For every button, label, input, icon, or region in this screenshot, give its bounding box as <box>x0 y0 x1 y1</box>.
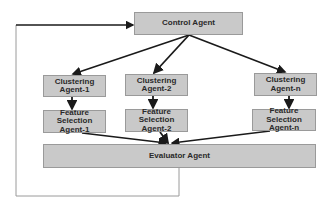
control-agent-label: Control Agent <box>162 19 215 28</box>
feature-selection-agent-1-node: Feature Selection Agent-1 <box>43 110 106 133</box>
clustering-agent-n-label: Clustering Agent-n <box>266 76 306 93</box>
clustering-agent-2-node: Clustering Agent-2 <box>125 74 188 96</box>
evaluator-agent-node: Evaluator Agent <box>43 144 316 168</box>
arrow-feature-2-to-evaluator <box>160 132 168 143</box>
clustering-agent-2-label: Clustering Agent-2 <box>137 77 177 94</box>
feature-selection-agent-1-label: Feature Selection Agent-1 <box>57 109 93 135</box>
multi-agent-diagram: Control Agent Clustering Agent-1 Cluster… <box>0 0 334 207</box>
clustering-agent-n-node: Clustering Agent-n <box>254 73 317 96</box>
arrow-feature-1-to-evaluator <box>82 133 166 143</box>
clustering-agent-1-label: Clustering Agent-1 <box>55 78 95 95</box>
evaluator-agent-label: Evaluator Agent <box>149 152 210 161</box>
control-agent-node: Control Agent <box>134 12 243 35</box>
feature-selection-agent-2-node: Feature Selection Agent-2 <box>125 109 188 132</box>
arrow-control-to-clustering-n <box>189 35 285 72</box>
feature-selection-agent-2-label: Feature Selection Agent-2 <box>139 108 175 134</box>
feature-selection-agent-n-label: Feature Selection Agent-n <box>266 107 302 133</box>
feature-selection-agent-n-node: Feature Selection Agent-n <box>252 109 316 131</box>
arrow-feature-n-to-evaluator <box>172 131 270 143</box>
clustering-agent-1-node: Clustering Agent-1 <box>43 75 106 97</box>
